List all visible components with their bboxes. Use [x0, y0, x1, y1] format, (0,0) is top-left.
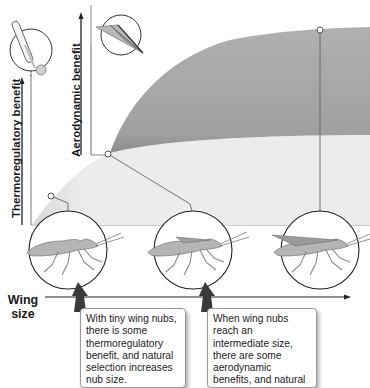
- wing-size-axis-arrow: [45, 295, 351, 300]
- aerodynamic-panel: [91, 5, 370, 155]
- aerodynamic-benefit-axis-label: Aerodynamic benefit: [70, 43, 82, 157]
- callout-tiny-wing-nubs: With tiny wing nubs, there is some therm…: [80, 308, 186, 388]
- wing-size-axis-label: Wing size: [3, 293, 43, 321]
- paper-airplane-icon: [96, 15, 143, 55]
- wing-evolution-diagram: Thermoregulatory benefit Aerodynamic ben…: [0, 0, 370, 388]
- thermoregulatory-benefit-axis-label: Thermoregulatory benefit: [10, 79, 22, 218]
- callout-intermediate-wing-nubs: When wing nubs reach an intermediate siz…: [207, 308, 317, 388]
- thermometer-icon: [10, 20, 52, 76]
- wing-size-label-line1: Wing: [3, 293, 43, 307]
- wing-size-label-line2: size: [3, 307, 43, 321]
